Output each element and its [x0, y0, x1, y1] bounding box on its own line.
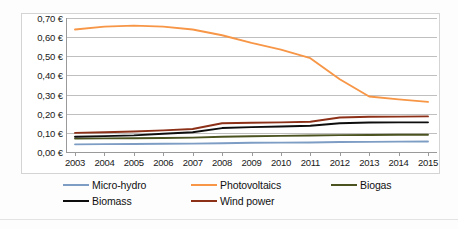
x-axis-tick — [369, 152, 370, 156]
x-axis-tick — [222, 152, 223, 156]
legend-item-photovoltaics[interactable]: Photovoltaics — [191, 178, 281, 191]
legend-label: Micro-hydro — [92, 179, 146, 191]
x-axis-tick — [281, 152, 282, 156]
legend-item-biomass[interactable]: Biomass — [63, 194, 132, 207]
x-axis-tick — [163, 152, 164, 156]
legend-item-wind-power[interactable]: Wind power — [191, 194, 274, 207]
x-axis-tick — [134, 152, 135, 156]
legend-label: Biogas — [360, 179, 392, 191]
x-axis-tick — [104, 152, 105, 156]
y-axis-tick-labels: 0,00 €0,10 €0,20 €0,30 €0,40 €0,50 €0,60… — [22, 18, 63, 152]
x-axis-tick — [193, 152, 194, 156]
x-axis-tick-label: 2011 — [301, 157, 320, 168]
legend-label: Wind power — [220, 195, 274, 207]
legend-swatch-icon — [331, 184, 357, 186]
x-axis-tick-label: 2015 — [418, 157, 438, 168]
plot-area — [66, 18, 437, 152]
x-axis-tick — [75, 152, 76, 156]
legend-label: Biomass — [92, 195, 132, 207]
y-axis-tick-label: 0,60 € — [37, 32, 63, 43]
legend-swatch-icon — [191, 184, 217, 186]
x-axis-tick-label: 2004 — [94, 157, 114, 168]
line-chart: 0,00 €0,10 €0,20 €0,30 €0,40 €0,50 €0,60… — [0, 0, 458, 229]
y-axis-tick-label: 0,30 € — [37, 89, 63, 100]
legend-swatch-icon — [63, 184, 89, 186]
x-axis-tick — [252, 152, 253, 156]
legend-swatch-icon — [191, 200, 217, 202]
legend-item-biogas[interactable]: Biogas — [331, 178, 392, 191]
series-line-wind-power — [75, 116, 428, 132]
x-axis-tick-label: 2008 — [212, 157, 232, 168]
y-axis-tick-label: 0,00 € — [37, 147, 63, 158]
series-lines — [66, 18, 437, 152]
x-axis-tick-label: 2014 — [389, 157, 409, 168]
chart-legend: Micro-hydroPhotovoltaicsBiogasBiomassWin… — [21, 178, 440, 212]
chart-plot-frame: 0,00 €0,10 €0,20 €0,30 €0,40 €0,50 €0,60… — [21, 13, 440, 174]
legend-item-micro-hydro[interactable]: Micro-hydro — [63, 178, 146, 191]
x-axis-tick-label: 2005 — [124, 157, 144, 168]
x-axis-tick-label: 2010 — [271, 157, 291, 168]
legend-swatch-icon — [63, 200, 89, 202]
legend-label: Photovoltaics — [220, 179, 281, 191]
y-axis-tick-label: 0,40 € — [37, 70, 63, 81]
x-axis-tick-label: 2013 — [359, 157, 379, 168]
x-axis-tick — [399, 152, 400, 156]
x-axis-tick-label: 2009 — [242, 157, 262, 168]
x-axis-tick — [310, 152, 311, 156]
series-line-micro-hydro — [75, 141, 428, 144]
y-axis-tick-label: 0,20 € — [37, 108, 63, 119]
bottom-divider — [0, 219, 458, 220]
y-axis-tick-label: 0,50 € — [37, 51, 63, 62]
series-line-photovoltaics — [75, 26, 428, 102]
x-axis-tick-label: 2012 — [330, 157, 350, 168]
x-axis-tick-label: 2007 — [183, 157, 203, 168]
y-axis-tick-label: 0,70 € — [37, 13, 63, 24]
x-axis-tick — [428, 152, 429, 156]
x-axis-tick-label: 2006 — [153, 157, 173, 168]
y-axis-tick-label: 0,10 € — [37, 127, 63, 138]
x-axis-tick-label: 2003 — [65, 157, 85, 168]
x-axis-tick — [340, 152, 341, 156]
x-axis-tick-labels: 2003200420052006200720082009201020112012… — [66, 157, 437, 171]
